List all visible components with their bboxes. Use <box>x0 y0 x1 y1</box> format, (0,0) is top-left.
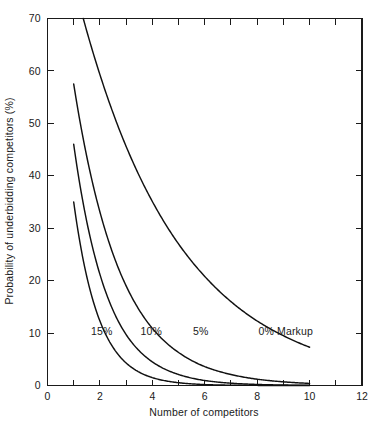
y-tick-label: 20 <box>29 274 41 286</box>
y-tick-label: 60 <box>29 65 41 77</box>
series-label-5: 5% <box>193 325 208 337</box>
series-label-10: 10% <box>141 325 162 337</box>
chart-background <box>0 0 380 430</box>
y-tick-label: 10 <box>29 327 41 339</box>
x-tick-label: 8 <box>254 390 260 402</box>
x-axis-title: Number of competitors <box>149 406 258 418</box>
y-tick-label: 40 <box>29 169 41 181</box>
y-tick-label: 50 <box>29 117 41 129</box>
y-tick-label: 0 <box>35 379 41 391</box>
chart-figure: 024681012 010203040506070 0% Markup5%10%… <box>0 0 380 430</box>
x-tick-label: 12 <box>356 390 368 402</box>
x-tick-label: 4 <box>149 390 155 402</box>
probability-underbidding-line-chart: 024681012 010203040506070 0% Markup5%10%… <box>0 0 380 430</box>
x-tick-label: 10 <box>304 390 316 402</box>
series-label-15: 15% <box>91 325 112 337</box>
y-tick-label: 30 <box>29 222 41 234</box>
series-label-0-markup: 0% Markup <box>258 325 312 337</box>
y-axis-title: Probability of underbidding competitors … <box>3 97 15 304</box>
x-tick-label: 0 <box>45 390 51 402</box>
y-tick-label: 70 <box>29 12 41 24</box>
x-tick-label: 2 <box>97 390 103 402</box>
x-tick-label: 6 <box>202 390 208 402</box>
